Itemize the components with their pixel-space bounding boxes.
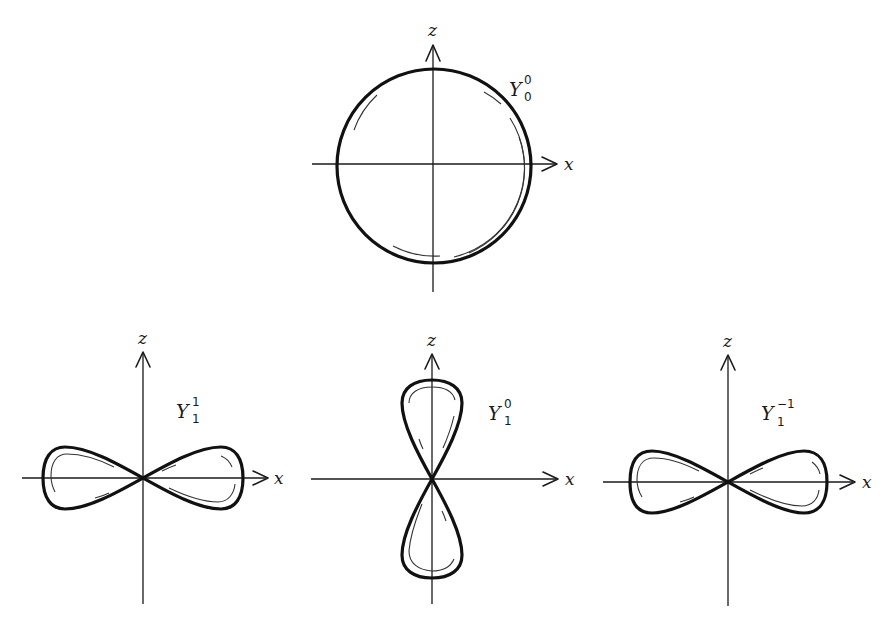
y1m1-inner-arc [812,462,820,474]
spherical-harmonics-figure: x z Y 0 0 x z Y 1 1 [0,0,894,618]
panel-y11: x z Y 1 1 [22,328,284,604]
x-axis-label: x [862,472,872,492]
z-axis-label: z [426,330,437,350]
label-subscript: 1 [504,414,512,428]
y10-inner-arc [442,511,446,521]
y10-inner-arc [419,439,423,449]
x-axis-label: x [274,468,284,488]
harmonic-label-y11: Y [176,400,191,422]
label-superscript: −1 [777,397,795,411]
label-base: Y [761,402,776,424]
panel-y1m1: x z Y −1 1 [603,331,872,606]
x-axis-label: x [565,469,575,489]
label-base: Y [176,400,191,422]
y11-inner-arc [51,454,114,492]
label-subscript: 0 [524,90,532,104]
harmonic-label-y1m1: Y [761,402,776,424]
label-superscript: 1 [192,395,200,409]
label-superscript: 0 [524,73,532,87]
label-base: Y [509,78,524,100]
label-subscript: 1 [777,415,785,429]
harmonic-label-y10: Y [488,402,503,424]
y11-inner-arc [169,484,235,502]
label-superscript: 0 [504,397,512,411]
x-axis-label: x [564,154,574,174]
panel-y00: x z Y 0 0 [312,20,574,292]
y00-inner-arc [454,118,524,257]
z-axis-label: z [137,328,148,348]
y00-sphere-outline [337,69,531,263]
label-base: Y [488,402,503,424]
z-axis-label: z [722,331,733,351]
panel-y10: x z Y 0 1 [311,330,575,604]
z-axis-label: z [427,20,438,40]
harmonic-label-y00: Y [509,78,524,100]
y11-inner-arc [221,456,232,467]
y00-inner-arc [354,95,377,130]
y1m1-inner-arc [637,458,699,497]
label-subscript: 1 [192,412,200,426]
y00-inner-arc [469,137,525,253]
